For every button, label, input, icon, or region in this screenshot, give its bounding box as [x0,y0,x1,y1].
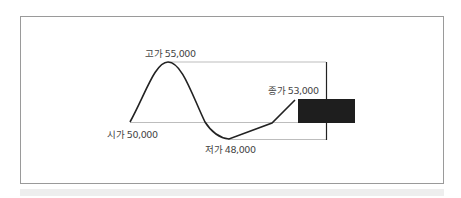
candlestick-diagram [0,0,461,198]
open-label: 시가 50,000 [107,130,158,140]
high-label: 고가 55,000 [145,49,196,59]
close-label: 종가 53,000 [268,86,319,96]
price-path-curve [130,62,295,139]
low-label: 저가 48,000 [205,145,256,155]
candle-body [298,99,355,123]
